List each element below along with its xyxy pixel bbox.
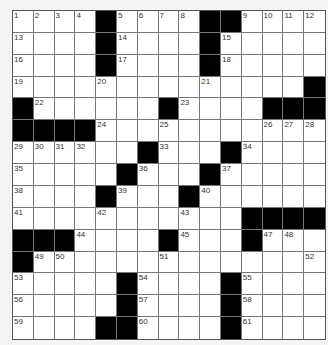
- answer-cell[interactable]: [34, 317, 55, 339]
- answer-cell[interactable]: [159, 208, 180, 230]
- answer-cell[interactable]: [55, 295, 76, 317]
- answer-cell[interactable]: [221, 230, 242, 252]
- answer-cell[interactable]: 6: [138, 11, 159, 33]
- answer-cell[interactable]: [138, 120, 159, 142]
- answer-cell[interactable]: [283, 164, 304, 186]
- answer-cell[interactable]: 12: [304, 11, 325, 33]
- answer-cell[interactable]: [55, 77, 76, 99]
- answer-cell[interactable]: [75, 164, 96, 186]
- answer-cell[interactable]: [304, 164, 325, 186]
- answer-cell[interactable]: 25: [159, 120, 180, 142]
- answer-cell[interactable]: [263, 55, 284, 77]
- answer-cell[interactable]: [242, 55, 263, 77]
- answer-cell[interactable]: [263, 295, 284, 317]
- answer-cell[interactable]: 55: [242, 273, 263, 295]
- answer-cell[interactable]: 5: [117, 11, 138, 33]
- answer-cell[interactable]: 42: [96, 208, 117, 230]
- answer-cell[interactable]: [117, 230, 138, 252]
- answer-cell[interactable]: [221, 186, 242, 208]
- answer-cell[interactable]: 9: [242, 11, 263, 33]
- answer-cell[interactable]: [117, 120, 138, 142]
- answer-cell[interactable]: [75, 55, 96, 77]
- answer-cell[interactable]: [283, 295, 304, 317]
- answer-cell[interactable]: 58: [242, 295, 263, 317]
- answer-cell[interactable]: [263, 317, 284, 339]
- answer-cell[interactable]: [159, 273, 180, 295]
- answer-cell[interactable]: 50: [55, 252, 76, 274]
- answer-cell[interactable]: 10: [263, 11, 284, 33]
- answer-cell[interactable]: [75, 252, 96, 274]
- answer-cell[interactable]: 13: [13, 33, 34, 55]
- answer-cell[interactable]: [96, 164, 117, 186]
- answer-cell[interactable]: [117, 252, 138, 274]
- answer-cell[interactable]: [159, 77, 180, 99]
- answer-cell[interactable]: [34, 55, 55, 77]
- answer-cell[interactable]: [221, 208, 242, 230]
- answer-cell[interactable]: [304, 33, 325, 55]
- answer-cell[interactable]: 26: [263, 120, 284, 142]
- answer-cell[interactable]: 38: [13, 186, 34, 208]
- answer-cell[interactable]: [34, 77, 55, 99]
- answer-cell[interactable]: 41: [13, 208, 34, 230]
- answer-cell[interactable]: [263, 164, 284, 186]
- answer-cell[interactable]: [283, 252, 304, 274]
- answer-cell[interactable]: [221, 98, 242, 120]
- answer-cell[interactable]: 18: [221, 55, 242, 77]
- answer-cell[interactable]: [117, 208, 138, 230]
- answer-cell[interactable]: 45: [179, 230, 200, 252]
- answer-cell[interactable]: [159, 317, 180, 339]
- answer-cell[interactable]: [55, 55, 76, 77]
- answer-cell[interactable]: [138, 186, 159, 208]
- answer-cell[interactable]: 35: [13, 164, 34, 186]
- answer-cell[interactable]: [75, 77, 96, 99]
- answer-cell[interactable]: 19: [13, 77, 34, 99]
- answer-cell[interactable]: [34, 208, 55, 230]
- answer-cell[interactable]: [138, 77, 159, 99]
- answer-cell[interactable]: [179, 142, 200, 164]
- answer-cell[interactable]: [159, 164, 180, 186]
- answer-cell[interactable]: [159, 55, 180, 77]
- answer-cell[interactable]: 44: [75, 230, 96, 252]
- answer-cell[interactable]: [200, 230, 221, 252]
- answer-cell[interactable]: [179, 164, 200, 186]
- answer-cell[interactable]: 30: [34, 142, 55, 164]
- answer-cell[interactable]: [55, 273, 76, 295]
- answer-cell[interactable]: [242, 186, 263, 208]
- answer-cell[interactable]: [96, 142, 117, 164]
- answer-cell[interactable]: [159, 295, 180, 317]
- answer-cell[interactable]: [159, 186, 180, 208]
- answer-cell[interactable]: 39: [117, 186, 138, 208]
- answer-cell[interactable]: [138, 55, 159, 77]
- answer-cell[interactable]: 53: [13, 273, 34, 295]
- answer-cell[interactable]: [263, 273, 284, 295]
- answer-cell[interactable]: 28: [304, 120, 325, 142]
- answer-cell[interactable]: [138, 252, 159, 274]
- answer-cell[interactable]: [179, 120, 200, 142]
- answer-cell[interactable]: [179, 317, 200, 339]
- answer-cell[interactable]: 24: [96, 120, 117, 142]
- answer-cell[interactable]: [75, 317, 96, 339]
- answer-cell[interactable]: [138, 208, 159, 230]
- answer-cell[interactable]: 4: [75, 11, 96, 33]
- answer-cell[interactable]: 59: [13, 317, 34, 339]
- answer-cell[interactable]: [75, 208, 96, 230]
- answer-cell[interactable]: [242, 120, 263, 142]
- answer-cell[interactable]: [55, 317, 76, 339]
- answer-cell[interactable]: [304, 317, 325, 339]
- answer-cell[interactable]: [96, 98, 117, 120]
- answer-cell[interactable]: 34: [242, 142, 263, 164]
- answer-cell[interactable]: 56: [13, 295, 34, 317]
- answer-cell[interactable]: 51: [159, 252, 180, 274]
- answer-cell[interactable]: [179, 55, 200, 77]
- answer-cell[interactable]: 17: [117, 55, 138, 77]
- answer-cell[interactable]: 40: [200, 186, 221, 208]
- answer-cell[interactable]: [179, 33, 200, 55]
- answer-cell[interactable]: [221, 252, 242, 274]
- answer-cell[interactable]: 37: [221, 164, 242, 186]
- answer-cell[interactable]: [263, 33, 284, 55]
- answer-cell[interactable]: [55, 208, 76, 230]
- answer-cell[interactable]: [179, 77, 200, 99]
- answer-cell[interactable]: [304, 230, 325, 252]
- answer-cell[interactable]: [96, 273, 117, 295]
- answer-cell[interactable]: [200, 120, 221, 142]
